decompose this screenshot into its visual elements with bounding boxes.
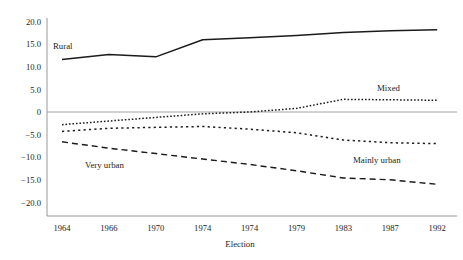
series-line-mainly-urban bbox=[62, 126, 437, 143]
line-chart: 20.015.010.05.00−5.0−10.0−15.0−20.0 1964… bbox=[0, 0, 463, 260]
y-axis-tick-labels: 20.015.010.05.00−5.0−10.0−15.0−20.0 bbox=[21, 17, 41, 208]
x-axis-tick-label: 1992 bbox=[429, 223, 446, 233]
y-axis-tick-label: 5.0 bbox=[30, 85, 41, 95]
x-axis-tick-label: 1987 bbox=[382, 223, 400, 233]
y-axis-tick-label: −10.0 bbox=[21, 152, 41, 162]
y-axis-tick-label: −15.0 bbox=[21, 175, 41, 185]
x-axis-title: Election bbox=[225, 239, 255, 249]
x-axis-tick-label: 1964 bbox=[53, 223, 71, 233]
y-axis-tick-label: −5.0 bbox=[25, 130, 41, 140]
x-axis-tick-label: 1970 bbox=[147, 223, 164, 233]
x-axis-tick-label: 1983 bbox=[335, 223, 352, 233]
series-line-rural bbox=[62, 30, 437, 60]
y-axis-tick-label: 20.0 bbox=[26, 17, 41, 27]
x-axis-tick-labels: 196419661970197419741979198319871992 bbox=[53, 223, 445, 233]
y-axis-tick-label: 15.0 bbox=[26, 39, 41, 49]
x-axis-tick-label: 1974 bbox=[241, 223, 259, 233]
series-label-very-urban: Very urban bbox=[85, 160, 124, 170]
y-axis-tick-label: −20.0 bbox=[21, 198, 41, 208]
x-axis-tick-label: 1979 bbox=[288, 223, 305, 233]
series-label-mainly-urban: Mainly urban bbox=[353, 155, 401, 165]
chart-canvas: 20.015.010.05.00−5.0−10.0−15.0−20.0 1964… bbox=[0, 0, 463, 260]
y-axis-tick-label: 0 bbox=[37, 107, 41, 117]
x-axis-tick-label: 1966 bbox=[100, 223, 118, 233]
series-annotation-group: RuralMixedMainly urbanVery urban bbox=[53, 41, 401, 170]
x-axis-tick-label: 1974 bbox=[194, 223, 212, 233]
y-axis-tick-label: 10.0 bbox=[26, 62, 41, 72]
series-label-rural: Rural bbox=[53, 41, 73, 51]
series-label-mixed: Mixed bbox=[377, 83, 401, 93]
